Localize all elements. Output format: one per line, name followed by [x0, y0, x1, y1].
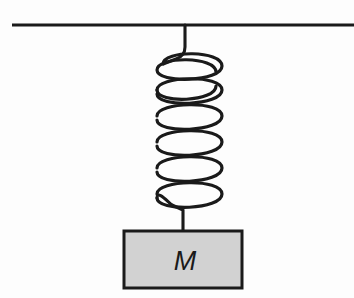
mass-block-label: M	[174, 246, 197, 276]
spring-coils	[157, 54, 222, 208]
spring-mass-diagram: M	[0, 0, 354, 298]
diagram-canvas: M	[0, 0, 354, 298]
bottom-attachment-wire	[157, 195, 183, 232]
